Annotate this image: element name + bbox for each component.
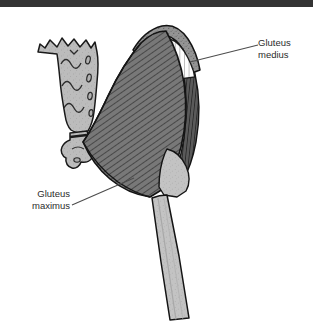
femur <box>152 195 189 320</box>
label-gluteus-maximus-line1: Gluteus <box>8 188 70 200</box>
femur-shaft-fill <box>152 195 189 320</box>
label-gluteus-maximus-line2: maximus <box>8 200 70 212</box>
label-gluteus-medius-line1: Gluteus <box>258 37 291 49</box>
leader-line-gluteus-medius <box>190 45 258 62</box>
sacrum-outline <box>38 38 98 133</box>
leader-line-gluteus-maximus <box>72 178 134 205</box>
label-gluteus-maximus: Gluteus maximus <box>8 188 70 211</box>
label-gluteus-medius: Gluteus medius <box>258 37 291 60</box>
label-gluteus-medius-line2: medius <box>258 49 291 61</box>
coccyx-tip <box>74 158 80 162</box>
sacrum <box>38 38 98 133</box>
illustration-page: Gluteus medius Gluteus maximus <box>0 0 313 330</box>
